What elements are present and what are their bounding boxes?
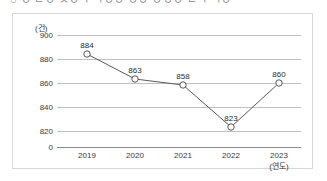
line-chart: (건) 900 880 860 840 820 0 884 863 858 82… xyxy=(13,14,314,170)
series-line xyxy=(87,54,279,127)
chart-figure-frame: (건) 900 880 860 840 820 0 884 863 858 82… xyxy=(12,13,313,169)
series-plot xyxy=(13,14,314,170)
cropped-caption-text: ○ ㅇ ㄴㅇ ㅅㅇㄱ ㄱㅇㅇ ㅇㅇ ㅇㅇㅇ ㄴㄱ ㄱㅇ xyxy=(10,0,232,7)
x-axis-unit-label: (연도) xyxy=(259,160,299,171)
x-tick-label-2021: 2021 xyxy=(163,151,203,160)
data-point-marker xyxy=(180,82,186,88)
data-point-marker xyxy=(84,51,90,57)
x-tick-label-2023: 2023 xyxy=(259,151,299,160)
cropped-caption-strip: ○ ㅇ ㄴㅇ ㅅㅇㄱ ㄱㅇㅇ ㅇㅇ ㅇㅇㅇ ㄴㄱ ㄱㅇ xyxy=(0,0,327,9)
data-point-marker xyxy=(228,124,234,130)
data-point-marker xyxy=(132,76,138,82)
data-point-marker xyxy=(276,80,282,86)
data-point-label-2019: 884 xyxy=(80,41,93,50)
x-tick-label-2020: 2020 xyxy=(115,151,155,160)
data-point-label-2023: 860 xyxy=(272,70,285,79)
data-point-label-2020: 863 xyxy=(128,66,141,75)
x-tick-label-2019: 2019 xyxy=(67,151,107,160)
x-tick-label-2022: 2022 xyxy=(211,151,251,160)
data-point-label-2022: 823 xyxy=(224,114,237,123)
data-point-label-2021: 858 xyxy=(176,72,189,81)
